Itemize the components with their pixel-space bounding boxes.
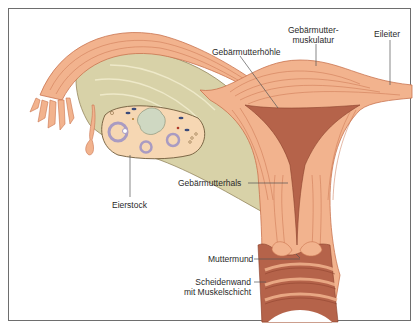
label-eileiter: Eileiter [374, 29, 400, 39]
label-scheidenwand-line2: mit Muskelschicht [175, 287, 251, 297]
label-muttermund: Muttermund [208, 254, 253, 264]
label-scheidenwand: Scheidenwand mit Muskelschicht [175, 277, 251, 297]
fimbriae [30, 98, 74, 130]
label-muskulatur-line2: muskulatur [288, 35, 339, 45]
label-muskulatur-line1: Gebärmutter- [288, 25, 339, 35]
label-gebaermutter-muskulatur: Gebärmutter- muskulatur [288, 25, 339, 45]
label-eierstock: Eierstock [112, 200, 147, 210]
label-scheidenwand-line1: Scheidenwand [175, 277, 251, 287]
label-gebaermutterhoehle: Gebärmutterhöhle [212, 47, 281, 57]
label-gebaermutterhals: Gebärmutterhals [178, 178, 241, 188]
